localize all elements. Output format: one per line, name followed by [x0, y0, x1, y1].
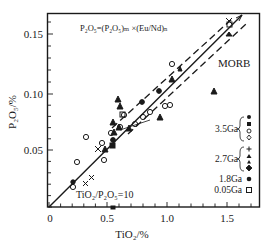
morb-label: MORB: [218, 57, 250, 69]
x-axis-ticks: [49, 202, 251, 207]
x-axis-title: TiO₂/%: [115, 228, 148, 240]
y-tick-label: 0.15: [24, 28, 44, 40]
y-axis-title: P₂O₅/%: [6, 95, 18, 129]
y-tick-label: 0.10: [24, 88, 44, 100]
y-tick-label: 0.05: [24, 144, 44, 156]
formula-annotation: P₂O₅=(P₂O₅)ₘ ×(Eu/Nd)ₙ: [80, 23, 168, 33]
legend-label-0.05ga: 0.05Ga: [214, 185, 242, 195]
legend: 3.5Ga 2.7Ga 1.8Ga 0.05Ga: [214, 115, 252, 195]
legend-label-2.7ga: 2.7Ga: [215, 154, 239, 164]
data-points: [70, 18, 232, 209]
scatter-chart: 0.15 0.10 0.05 0 0.5 1.0 1.5 TiO₂/% P₂O₅…: [0, 0, 271, 243]
y-axis-ticks: [48, 22, 53, 207]
ratio-10-line: [49, 15, 242, 207]
x-tick-label: 1.5: [220, 212, 234, 224]
morb-upper-dashed: [112, 18, 233, 128]
legend-label-3.5ga: 3.5Ga: [215, 124, 239, 134]
x-tick-label: 1.0: [160, 212, 174, 224]
legend-label-1.8ga: 1.8Ga: [219, 174, 243, 184]
ratio-label: TiO₂/P₂O₅=10: [76, 189, 133, 200]
x-tick-label: 0: [47, 212, 53, 224]
x-tick-label: 0.5: [100, 212, 114, 224]
